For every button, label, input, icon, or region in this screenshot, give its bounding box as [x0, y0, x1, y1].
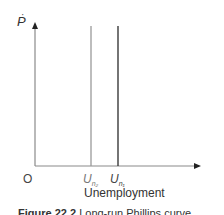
y-axis-label: P	[17, 14, 26, 29]
figure-caption: Figure 22.2 Long-run Phillips curve	[18, 207, 191, 215]
x-axis-arrow-icon	[194, 163, 201, 169]
tick-un2-main: U	[83, 172, 92, 186]
caption-number: Figure 22.2	[18, 207, 76, 215]
x-axis-label: Unemployment	[84, 186, 165, 200]
origin-label: O	[23, 172, 32, 186]
caption-text: Long-run Phillips curve	[79, 207, 191, 215]
y-axis-arrow-icon	[32, 22, 38, 29]
tick-un1-main: U	[110, 172, 119, 186]
